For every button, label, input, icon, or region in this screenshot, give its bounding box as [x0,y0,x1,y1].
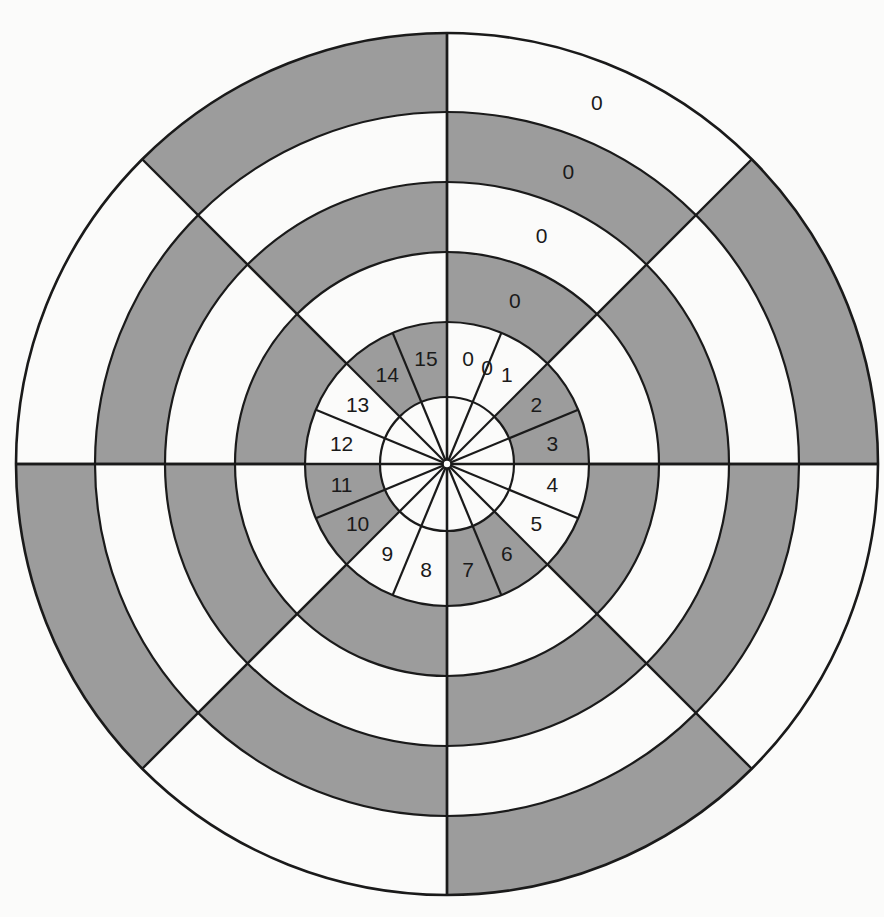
core-sector-label-10: 10 [346,512,369,535]
ring-3-sector-0-label: 0 [536,224,548,247]
core-sector-label-12: 12 [330,432,353,455]
core-sector-label-1: 1 [501,363,513,386]
ring-1-sector-0-label: 0 [481,356,493,379]
core-sector-label-7: 7 [462,558,474,581]
core-sector-label-9: 9 [381,542,393,565]
ring-2-sector-0-label: 0 [509,289,521,312]
core-sector-label-8: 8 [420,558,432,581]
core-sector-label-14: 14 [376,363,400,386]
figure-canvas: 012345678910111213141500000 [0,0,884,917]
shaded-sector-cell [297,564,447,676]
core-sector-label-4: 4 [547,473,559,496]
core-sector-label-3: 3 [547,432,559,455]
core-sector-label-15: 15 [414,347,437,370]
core-sector-label-5: 5 [531,512,543,535]
core-sector-label-0: 0 [462,347,474,370]
core-sector-label-11: 11 [331,473,353,496]
ring-5-sector-0-label: 0 [591,91,603,114]
shaded-sector-cell [547,464,659,614]
core-sector-label-2: 2 [531,393,543,416]
core-sector-label-6: 6 [501,542,513,565]
centre-dot [444,461,450,467]
spoke-group [16,33,878,895]
core-sector-label-13: 13 [346,393,369,416]
ring-4-sector-0-label: 0 [562,160,574,183]
polar-sector-diagram: 012345678910111213141500000 [0,0,884,917]
